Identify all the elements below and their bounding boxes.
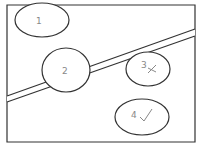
diagram-canvas: 1 2 3 4 [0, 0, 202, 149]
region-3-label: 3 [141, 60, 147, 70]
ellipse-1 [15, 3, 69, 37]
region-1: 1 [15, 3, 69, 37]
region-1-label: 1 [36, 16, 42, 26]
ellipse-4 [115, 99, 169, 135]
region-4: 4 [115, 99, 169, 135]
region-2-label: 2 [62, 66, 68, 76]
region-4-label: 4 [131, 110, 137, 120]
region-2: 2 [42, 48, 90, 92]
region-3: 3 [126, 52, 170, 86]
ellipse-3 [126, 52, 170, 86]
